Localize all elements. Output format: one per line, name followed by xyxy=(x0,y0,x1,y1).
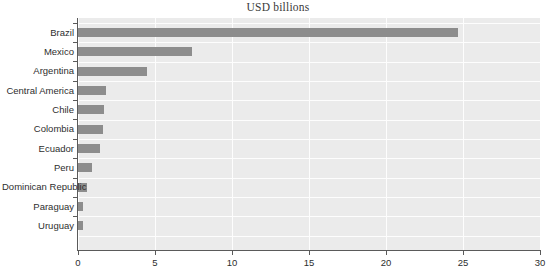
chart-title: USD billions xyxy=(0,1,556,13)
gridline-horizontal xyxy=(78,139,540,140)
plot-area xyxy=(78,18,540,250)
gridline-horizontal xyxy=(78,197,540,198)
bar xyxy=(78,47,192,56)
y-axis-label: Dominican Republic xyxy=(2,181,74,192)
bar xyxy=(78,86,106,95)
x-axis-tick xyxy=(155,251,156,255)
y-axis-label: Chile xyxy=(2,104,74,115)
gridline-horizontal xyxy=(78,236,540,237)
x-axis-tick-label: 15 xyxy=(304,257,315,268)
gridline-horizontal xyxy=(78,120,540,121)
x-axis-tick-label: 25 xyxy=(458,257,469,268)
bar-chart: USD billions BrazilMexicoArgentinaCentra… xyxy=(0,0,556,274)
y-axis-label: Peru xyxy=(2,162,74,173)
bar xyxy=(78,202,83,211)
gridline-horizontal xyxy=(78,100,540,101)
x-axis-tick xyxy=(309,251,310,255)
x-axis-tick xyxy=(78,251,79,255)
y-axis-label: Colombia xyxy=(2,123,74,134)
gridline-horizontal xyxy=(78,23,540,24)
gridline-horizontal xyxy=(78,42,540,43)
x-axis-tick xyxy=(386,251,387,255)
x-axis-tick-label: 10 xyxy=(227,257,238,268)
x-axis-tick xyxy=(232,251,233,255)
y-axis-label: Central America xyxy=(2,85,74,96)
y-axis-label: Uruguay xyxy=(2,220,74,231)
y-axis-label: Argentina xyxy=(2,65,74,76)
bar xyxy=(78,28,458,37)
y-axis-label: Ecuador xyxy=(2,143,74,154)
bar xyxy=(78,163,92,172)
bar xyxy=(78,67,147,76)
x-axis-tick xyxy=(463,251,464,255)
gridline-horizontal xyxy=(78,62,540,63)
gridline-horizontal xyxy=(78,216,540,217)
y-axis-label: Mexico xyxy=(2,46,74,57)
y-axis-labels: BrazilMexicoArgentinaCentral AmericaChil… xyxy=(0,0,74,274)
bar xyxy=(78,221,83,230)
gridline-horizontal xyxy=(78,81,540,82)
x-axis-tick-label: 20 xyxy=(381,257,392,268)
x-axis-tick-label: 5 xyxy=(152,257,157,268)
gridline-horizontal xyxy=(78,178,540,179)
x-axis-tick xyxy=(540,251,541,255)
x-axis-tick-label: 30 xyxy=(535,257,546,268)
y-axis-label: Brazil xyxy=(2,27,74,38)
bar xyxy=(78,144,100,153)
bar xyxy=(78,125,103,134)
y-axis-label: Paraguay xyxy=(2,201,74,212)
x-axis-tick-label: 0 xyxy=(75,257,80,268)
bar xyxy=(78,105,104,114)
gridline-horizontal xyxy=(78,158,540,159)
